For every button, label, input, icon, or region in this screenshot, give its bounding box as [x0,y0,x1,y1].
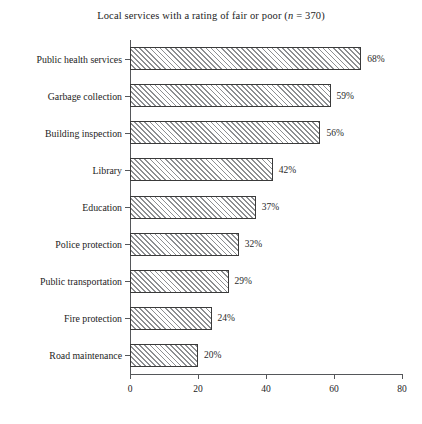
y-axis-label: Public health services [37,53,122,64]
bar-value-label: 42% [279,165,296,175]
bar [130,196,256,219]
y-axis-tick [125,207,130,208]
y-axis-label: Road maintenance [49,350,122,361]
bar [130,121,320,144]
bar-value-label: 20% [204,350,221,360]
y-axis-tick [125,244,130,245]
y-axis-tick [125,355,130,356]
bar-value-label: 24% [218,313,235,323]
y-axis-label: Garbage collection [48,90,122,101]
bar-value-label: 59% [337,91,354,101]
x-axis-tick-label: 60 [329,384,339,394]
bar-value-label: 68% [367,54,384,64]
x-axis-tick-label: 40 [261,384,271,394]
bar [130,307,212,330]
bar-chart: Local services with a rating of fair or … [0,0,422,424]
x-axis-tick [402,374,403,379]
chart-title-prefix: Local services with a rating of fair or … [97,10,288,21]
x-axis-tick [334,374,335,379]
y-axis-tick [125,281,130,282]
y-axis-tick [125,170,130,171]
chart-title-suffix: = 370) [293,10,324,21]
y-axis-label: Public transportation [40,276,122,287]
y-axis-tick [125,59,130,60]
bar [130,47,361,70]
x-axis-tick-label: 20 [193,384,203,394]
bar-value-label: 32% [245,239,262,249]
bar [130,270,229,293]
chart-title: Local services with a rating of fair or … [0,10,422,21]
x-axis-tick-label: 80 [397,384,407,394]
x-axis-tick [266,374,267,379]
plot-area: 68%59%56%42%37%32%29%24%20%020406080 [130,40,402,374]
bar-value-label: 37% [262,202,279,212]
y-axis-category-labels: Public health servicesGarbage collection… [0,40,122,374]
y-axis-tick [125,318,130,319]
y-axis-tick [125,96,130,97]
y-axis-label: Library [93,164,122,175]
y-axis-label: Building inspection [45,127,122,138]
y-axis-tick [125,133,130,134]
bar [130,84,331,107]
bar [130,344,198,367]
x-axis-tick [130,374,131,379]
bar [130,158,273,181]
y-axis-label: Fire protection [64,313,122,324]
bar-value-label: 29% [235,276,252,286]
x-axis-tick [198,374,199,379]
bar [130,233,239,256]
y-axis-label: Education [82,202,122,213]
bar-value-label: 56% [326,128,343,138]
x-axis-tick-label: 0 [128,384,133,394]
y-axis-label: Police protection [55,239,122,250]
